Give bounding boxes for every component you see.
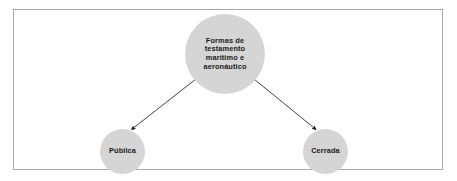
node-cerrada-label-line-1: Cerrada (304, 147, 348, 156)
node-root-label-line-2: testamento (188, 45, 262, 54)
diagram-canvas: Formas de testamento marítimo e aeronáut… (0, 0, 457, 181)
node-publica-label: Pública (101, 147, 145, 156)
node-publica-label-line-1: Pública (101, 147, 145, 156)
node-cerrada[interactable]: Cerrada (303, 129, 348, 174)
edge-root-to-cerrada (252, 77, 317, 130)
node-root-label-line-1: Formas de (188, 37, 262, 46)
node-publica[interactable]: Pública (100, 129, 145, 174)
node-root-label-line-4: aeronáutico (188, 63, 262, 72)
node-root-label: Formas de testamento marítimo e aeronáut… (188, 37, 262, 72)
node-cerrada-label: Cerrada (304, 147, 348, 156)
node-root-label-line-3: marítimo e (188, 54, 262, 63)
node-root[interactable]: Formas de testamento marítimo e aeronáut… (185, 14, 265, 94)
edge-root-to-publica (132, 77, 199, 130)
